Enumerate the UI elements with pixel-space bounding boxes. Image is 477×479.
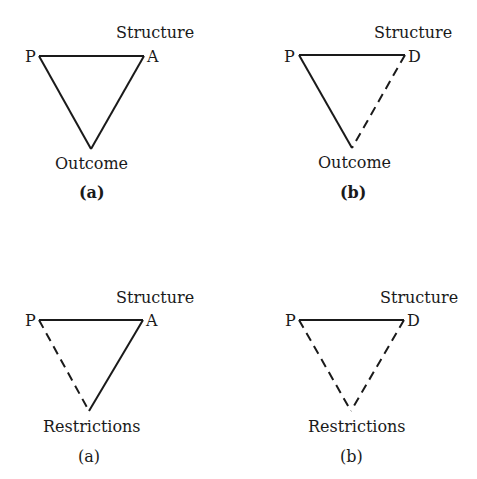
caption-b: (b) — [340, 447, 363, 466]
caption-a: (a) — [78, 447, 100, 466]
outcome-label: Outcome — [55, 154, 128, 173]
edge-p-outcome — [39, 56, 91, 149]
caption-b: (b) — [340, 183, 366, 202]
edge-d-outcome — [352, 55, 405, 148]
edge-a-outcome — [91, 56, 144, 149]
structure-label: Structure — [380, 288, 458, 307]
vertex-p-label: P — [285, 311, 296, 330]
outcome-label: Outcome — [318, 153, 391, 172]
vertex-p-label: P — [25, 311, 36, 330]
structure-label: Structure — [116, 23, 194, 42]
vertex-a-label: A — [145, 311, 158, 330]
diagram-bottom-a: Structure P A Restrictions (a) — [25, 288, 194, 466]
vertex-p-label: P — [25, 47, 36, 66]
edge-p-restrictions — [39, 320, 89, 411]
structure-label: Structure — [374, 23, 452, 42]
restrictions-label: Restrictions — [308, 417, 406, 436]
vertex-d-label: D — [408, 47, 421, 66]
diagram-bottom-b: Structure P D Restrictions (b) — [285, 288, 458, 466]
caption-a: (a) — [79, 183, 105, 202]
triangle-diagrams: Structure P A Outcome (a) Structure P D … — [0, 0, 477, 479]
edge-p-outcome — [299, 55, 352, 148]
vertex-d-label: D — [407, 311, 420, 330]
structure-label: Structure — [116, 288, 194, 307]
vertex-p-label: P — [284, 47, 295, 66]
edge-a-restrictions — [89, 320, 143, 411]
restrictions-label: Restrictions — [43, 417, 141, 436]
diagram-top-a: Structure P A Outcome (a) — [25, 23, 194, 202]
edge-d-restrictions — [351, 320, 404, 411]
diagram-top-b: Structure P D Outcome (b) — [284, 23, 452, 202]
edge-p-restrictions — [299, 320, 351, 411]
vertex-a-label: A — [146, 47, 159, 66]
